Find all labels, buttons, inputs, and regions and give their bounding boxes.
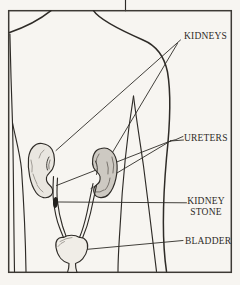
label-kidney-stone-line2: STONE (190, 207, 221, 217)
torso-outline (10, 11, 170, 272)
bladder (56, 235, 88, 272)
label-kidney-stone: KIDNEY STONE (185, 196, 227, 217)
kidney-left (28, 143, 54, 197)
label-ureters: URETERS (184, 133, 228, 144)
label-kidney-stone-line1: KIDNEY (187, 196, 225, 206)
kidney-right (93, 148, 118, 198)
label-kidneys: KIDNEYS (184, 31, 227, 42)
anatomy-figure: KIDNEYS URETERS KIDNEY STONE BLADDER (0, 0, 240, 285)
label-bladder: BLADDER (185, 236, 231, 247)
ureters (53, 177, 97, 239)
